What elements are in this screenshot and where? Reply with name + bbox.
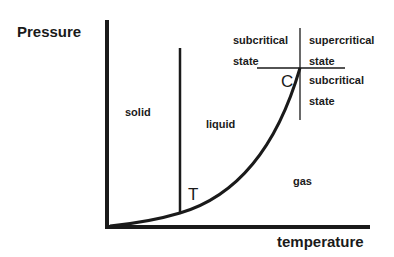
subcritical-lower-right-line1: subcritical — [309, 75, 364, 86]
subcritical-upper-left-line1: subcritical — [233, 35, 288, 46]
y-axis-label: Pressure — [17, 24, 81, 39]
region-liquid-label: liquid — [206, 119, 235, 130]
region-solid-label: solid — [125, 107, 151, 118]
region-gas-label: gas — [293, 176, 312, 187]
subcritical-lower-right-line2: state — [309, 96, 335, 107]
supercritical-line2: state — [309, 56, 335, 67]
critical-point-label: C — [281, 73, 293, 90]
vaporization-curve — [110, 68, 300, 226]
x-axis-label: temperature — [277, 234, 364, 249]
triple-point-label: T — [188, 186, 198, 203]
supercritical-line1: supercritical — [309, 35, 374, 46]
phase-diagram: Pressure temperature solid liquid gas T … — [0, 0, 394, 257]
subcritical-upper-left-line2: state — [233, 56, 259, 67]
